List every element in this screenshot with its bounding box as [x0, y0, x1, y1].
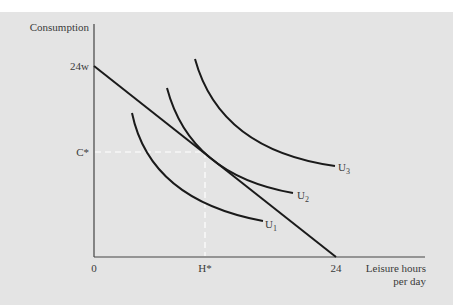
x-intercept-label: 24 [331, 262, 343, 274]
x-axis-label-line2: per day [393, 275, 426, 287]
x-axis-label-line1: Leisure hours [366, 262, 426, 274]
origin-label: 0 [91, 262, 97, 274]
indifference-curve-u1 [132, 113, 263, 221]
labor-leisure-diagram: Consumption 24w C* 0 H* 24 Leisure hours… [0, 0, 458, 305]
h-star-label: H* [198, 262, 211, 274]
indifference-curve-u3 [195, 59, 335, 166]
y-intercept-label: 24w [70, 60, 89, 72]
indifference-curve-u2 [167, 88, 293, 193]
u2-label: U2 [297, 189, 309, 204]
u3-label: U3 [338, 161, 350, 176]
c-star-label: C* [76, 146, 89, 158]
y-axis-label: Consumption [30, 21, 90, 33]
u1-label: U1 [265, 218, 277, 233]
